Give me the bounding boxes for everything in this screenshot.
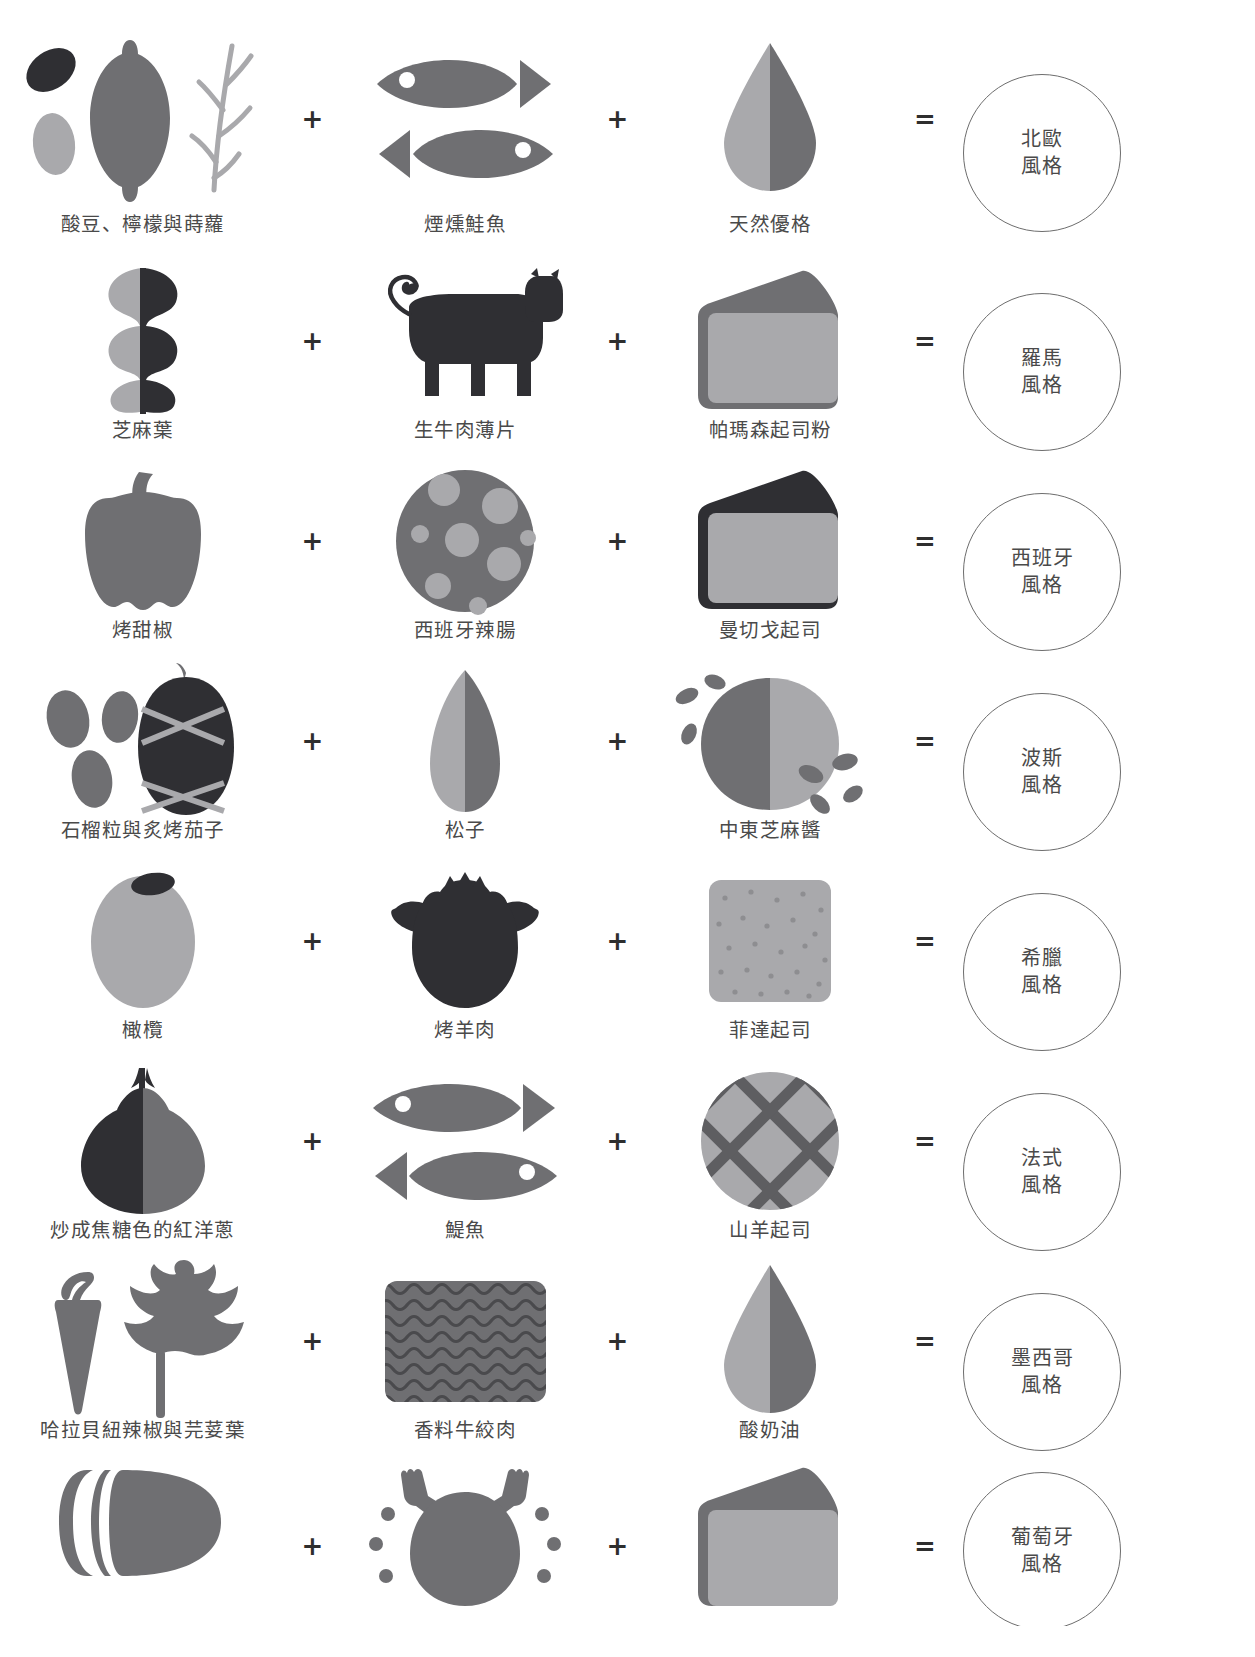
- equals-symbol: =: [895, 28, 955, 210]
- plus-symbol: +: [285, 866, 340, 1016]
- ingredient-cell: 酸奶油: [645, 1266, 895, 1466]
- equals-symbol: =: [895, 1266, 955, 1416]
- ingredient-label: 中東芝麻醬: [719, 820, 822, 841]
- cheese-wedge-icon: [645, 1466, 895, 1626]
- smoked-salmon-icon: [340, 28, 590, 210]
- ingredient-label: 芝麻葉: [112, 420, 174, 441]
- capers-lemon-dill-icon: [0, 28, 285, 210]
- ingredient-cell: 松子: [340, 666, 590, 866]
- result-label-line1: 北歐: [1021, 126, 1063, 153]
- ingredient-cell: 橄欖: [0, 866, 285, 1066]
- plus-symbol: +: [285, 1466, 340, 1626]
- pomegranate-eggplant-icon: [0, 666, 285, 816]
- result-circle: 西班牙 風格: [963, 493, 1121, 651]
- ingredient-cell: 酸豆、檸檬與蒔蘿: [0, 28, 285, 266]
- grilled-chicken-icon: [340, 1466, 590, 1626]
- ingredient-label: 曼切戈起司: [719, 620, 822, 641]
- result-label-line2: 風格: [1021, 1551, 1063, 1578]
- ingredient-label: 煙燻鮭魚: [424, 214, 506, 235]
- sour-cream-drop-icon: [645, 1266, 895, 1416]
- equals-symbol: =: [895, 866, 955, 1016]
- result-cell: 法式 風格: [955, 1066, 1255, 1272]
- ingredient-cell: 帕瑪森起司粉: [645, 266, 895, 466]
- olive-icon: [0, 866, 285, 1016]
- plus-symbol: +: [590, 1266, 645, 1416]
- chorizo-slice-icon: [340, 466, 590, 616]
- equals-symbol: =: [895, 1466, 955, 1626]
- plain-yogurt-drop-icon: [645, 28, 895, 210]
- ingredient-cell: 生牛肉薄片: [340, 266, 590, 466]
- flavor-combination-chart: 酸豆、檸檬與蒔蘿 + 煙燻鮭魚: [0, 28, 1255, 1657]
- beef-carpaccio-cow-icon: [340, 266, 590, 416]
- result-label-line1: 法式: [1021, 1145, 1063, 1172]
- plus-symbol: +: [285, 1066, 340, 1216]
- ingredient-label: 石榴粒與炙烤茄子: [61, 820, 225, 841]
- plus-symbol: +: [590, 266, 645, 416]
- ingredient-cell: 西班牙辣腸: [340, 466, 590, 666]
- result-cell: 北歐 風格: [955, 28, 1255, 272]
- ingredient-cell: [340, 1466, 590, 1626]
- result-label-line2: 風格: [1021, 972, 1063, 999]
- result-label-line1: 墨西哥: [1011, 1345, 1074, 1372]
- result-circle: 羅馬 風格: [963, 293, 1121, 451]
- plus-symbol: +: [285, 466, 340, 616]
- plus-symbol: +: [590, 866, 645, 1016]
- ingredient-cell: 香料牛絞肉: [340, 1266, 590, 1466]
- anchovy-fish-icon: [340, 1066, 590, 1216]
- result-label-line2: 風格: [1021, 153, 1063, 180]
- equals-symbol: =: [895, 666, 955, 816]
- equals-symbol: =: [895, 466, 955, 616]
- result-circle: 法式 風格: [963, 1093, 1121, 1251]
- equals-symbol: =: [895, 1066, 955, 1216]
- result-cell: 葡萄牙 風格: [955, 1466, 1255, 1626]
- plus-symbol: +: [590, 28, 645, 210]
- result-label-line1: 波斯: [1021, 745, 1063, 772]
- plus-symbol: +: [590, 1466, 645, 1626]
- plus-symbol: +: [590, 1066, 645, 1216]
- result-cell: 西班牙 風格: [955, 466, 1255, 672]
- ingredient-cell: 山羊起司: [645, 1066, 895, 1266]
- ingredient-label: 西班牙辣腸: [414, 620, 517, 641]
- ingredient-cell: 石榴粒與炙烤茄子: [0, 666, 285, 866]
- ingredient-cell: 烤羊肉: [340, 866, 590, 1066]
- plus-symbol: +: [285, 266, 340, 416]
- result-circle: 葡萄牙 風格: [963, 1472, 1121, 1626]
- result-cell: 波斯 風格: [955, 666, 1255, 872]
- ingredient-cell: 烤甜椒: [0, 466, 285, 666]
- plus-symbol: +: [590, 466, 645, 616]
- combination-row: 橄欖 + 烤羊肉 +: [0, 866, 1255, 1066]
- combination-row: 芝麻葉 + 生牛肉薄片 +: [0, 266, 1255, 466]
- result-label-line2: 風格: [1021, 772, 1063, 799]
- ingredient-label: 酸奶油: [739, 1420, 801, 1441]
- combination-row: 炒成焦糖色的紅洋蔥 + 鯷魚: [0, 1066, 1255, 1266]
- ingredient-cell: 天然優格: [645, 28, 895, 266]
- ingredient-cell: 炒成焦糖色的紅洋蔥: [0, 1066, 285, 1266]
- result-label-line2: 風格: [1021, 1172, 1063, 1199]
- combination-row: 酸豆、檸檬與蒔蘿 + 煙燻鮭魚: [0, 28, 1255, 266]
- combination-row: 哈拉貝紐辣椒與芫荽葉 +: [0, 1266, 1255, 1466]
- pine-nut-icon: [340, 666, 590, 816]
- result-label-line1: 西班牙: [1011, 545, 1074, 572]
- result-label-line2: 風格: [1021, 372, 1063, 399]
- ingredient-label: 生牛肉薄片: [414, 420, 517, 441]
- result-circle: 希臘 風格: [963, 893, 1121, 1051]
- ingredient-label: 香料牛絞肉: [414, 1420, 517, 1441]
- result-label-line1: 希臘: [1021, 945, 1063, 972]
- ingredient-label: 烤甜椒: [112, 620, 174, 641]
- ingredient-cell: 哈拉貝紐辣椒與芫荽葉: [0, 1266, 285, 1466]
- parmesan-wedge-icon: [645, 266, 895, 416]
- tahini-sesame-icon: [645, 666, 895, 816]
- result-cell: 希臘 風格: [955, 866, 1255, 1072]
- result-label-line2: 風格: [1021, 1372, 1063, 1399]
- ingredient-cell: 煙燻鮭魚: [340, 28, 590, 266]
- result-cell: 羅馬 風格: [955, 266, 1255, 472]
- result-cell: 墨西哥 風格: [955, 1266, 1255, 1472]
- combination-row: 烤甜椒 + 西班牙: [0, 466, 1255, 666]
- ingredient-cell: [0, 1466, 285, 1626]
- result-circle: 墨西哥 風格: [963, 1293, 1121, 1451]
- goat-cheese-round-icon: [645, 1066, 895, 1216]
- ingredient-label: 酸豆、檸檬與蒔蘿: [61, 214, 225, 235]
- jalapeno-cilantro-icon: [0, 1266, 285, 1416]
- caramelized-red-onion-icon: [0, 1066, 285, 1216]
- ingredient-label: 哈拉貝紐辣椒與芫荽葉: [40, 1420, 245, 1441]
